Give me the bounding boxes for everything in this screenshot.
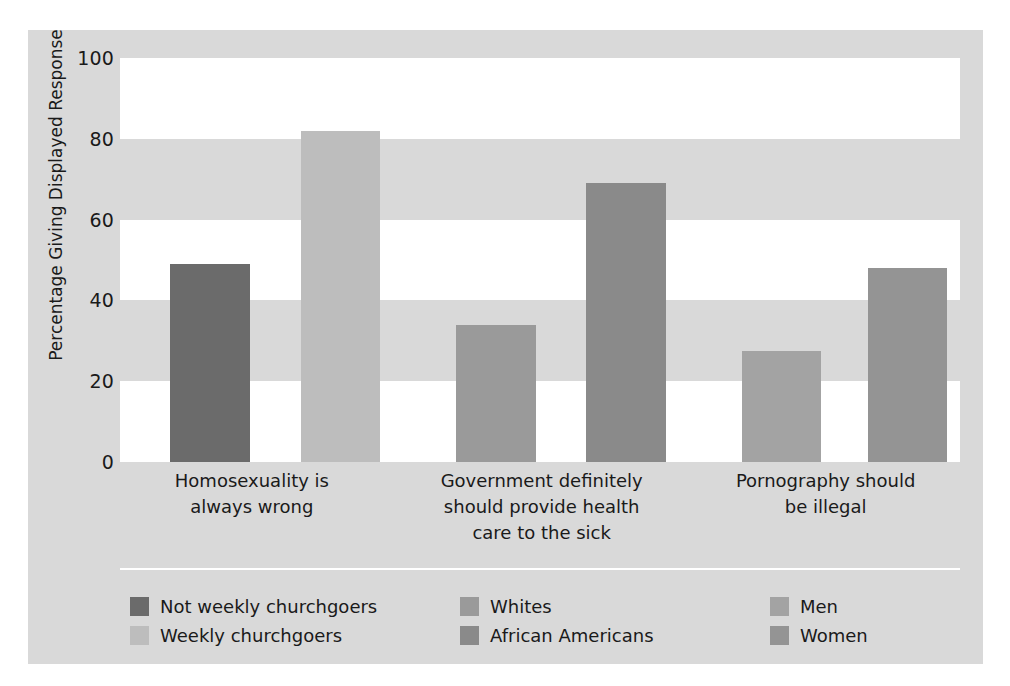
- legend-label: Women: [800, 625, 868, 646]
- legend-label: Not weekly churchgoers: [160, 596, 377, 617]
- legend-swatch-icon: [770, 597, 789, 616]
- bar-women: [868, 268, 948, 462]
- y-axis-tick-labels: 020406080100: [56, 30, 114, 664]
- legend-item-not-weekly-churchgoers[interactable]: Not weekly churchgoers: [130, 592, 377, 621]
- category-label-line: care to the sick: [399, 520, 685, 546]
- legend-swatch-icon: [460, 626, 479, 645]
- legend-item-weekly-churchgoers[interactable]: Weekly churchgoers: [130, 621, 377, 650]
- x-axis-category-labels: Homosexuality isalways wrongGovernment d…: [120, 468, 960, 564]
- legend-label: African Americans: [490, 625, 654, 646]
- category-label-line: always wrong: [109, 494, 395, 520]
- x-category-label-2: Government definitelyshould provide heal…: [399, 468, 685, 546]
- y-tick-label: 60: [56, 209, 114, 231]
- y-tick-label: 40: [56, 289, 114, 311]
- legend-item-african-americans[interactable]: African Americans: [460, 621, 654, 650]
- legend-swatch-icon: [130, 626, 149, 645]
- x-category-label-3: Pornography shouldbe illegal: [683, 468, 969, 520]
- legend-separator-rule: [120, 568, 960, 570]
- chart-screenshot: Percentage Giving Displayed Response 020…: [0, 0, 1010, 686]
- bar-whites: [456, 325, 536, 462]
- figure-panel: Percentage Giving Displayed Response 020…: [28, 30, 983, 664]
- category-label-line: Pornography should: [683, 468, 969, 494]
- legend-swatch-icon: [130, 597, 149, 616]
- bar-weekly-churchgoers: [301, 131, 381, 462]
- legend-label: Weekly churchgoers: [160, 625, 342, 646]
- x-category-label-1: Homosexuality isalways wrong: [109, 468, 395, 520]
- legend-item-men[interactable]: Men: [770, 592, 868, 621]
- category-label-line: should provide health: [399, 494, 685, 520]
- y-tick-label: 100: [56, 47, 114, 69]
- legend-item-women[interactable]: Women: [770, 621, 868, 650]
- legend-swatch-icon: [460, 597, 479, 616]
- category-label-line: be illegal: [683, 494, 969, 520]
- category-label-line: Government definitely: [399, 468, 685, 494]
- bar-african-americans: [586, 183, 666, 462]
- category-label-line: Homosexuality is: [109, 468, 395, 494]
- y-tick-label: 20: [56, 370, 114, 392]
- plot-area: [120, 58, 960, 462]
- legend-label: Men: [800, 596, 838, 617]
- legend-item-whites[interactable]: Whites: [460, 592, 654, 621]
- legend-label: Whites: [490, 596, 552, 617]
- chart-legend: Not weekly churchgoersWeekly churchgoers…: [120, 592, 980, 654]
- bar-group: [120, 58, 960, 462]
- legend-column-3: MenWomen: [770, 592, 868, 650]
- legend-column-1: Not weekly churchgoersWeekly churchgoers: [130, 592, 377, 650]
- bar-men: [742, 351, 822, 462]
- y-tick-label: 80: [56, 128, 114, 150]
- bar-not-weekly-churchgoers: [170, 264, 250, 462]
- legend-swatch-icon: [770, 626, 789, 645]
- legend-column-2: WhitesAfrican Americans: [460, 592, 654, 650]
- y-tick-label: 0: [56, 451, 114, 473]
